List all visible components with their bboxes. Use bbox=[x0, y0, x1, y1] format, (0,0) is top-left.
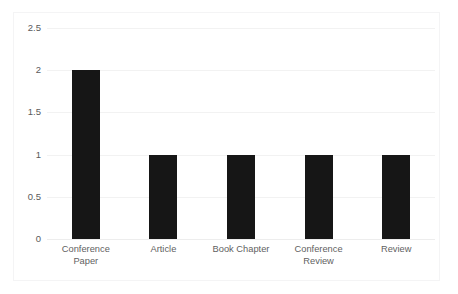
y-axis-tick-label: 2 bbox=[7, 65, 41, 75]
x-axis-tick-label: Article bbox=[123, 243, 203, 255]
y-axis-tick-label: 0.5 bbox=[7, 192, 41, 202]
bar-series bbox=[47, 28, 435, 239]
y-axis-tick-label: 0 bbox=[7, 234, 41, 244]
y-axis-tick-label: 1 bbox=[7, 150, 41, 160]
x-axis-tick-label: Review bbox=[356, 243, 436, 255]
y-axis-tick-label: 2.5 bbox=[7, 23, 41, 33]
y-axis: 00.511.522.5 bbox=[0, 28, 41, 239]
gridline bbox=[47, 239, 435, 240]
bar bbox=[305, 155, 333, 239]
bar bbox=[149, 155, 177, 239]
x-axis: Conference PaperArticleBook ChapterConfe… bbox=[47, 243, 435, 277]
bar bbox=[382, 155, 410, 239]
y-axis-tick-label: 1.5 bbox=[7, 107, 41, 117]
x-axis-tick-label: Book Chapter bbox=[201, 243, 281, 255]
bar-chart: 00.511.522.5 Conference PaperArticleBook… bbox=[0, 0, 458, 294]
bar bbox=[72, 70, 100, 239]
x-axis-tick-label: Conference Paper bbox=[46, 243, 126, 267]
bar bbox=[227, 155, 255, 239]
x-axis-tick-label: Conference Review bbox=[279, 243, 359, 267]
